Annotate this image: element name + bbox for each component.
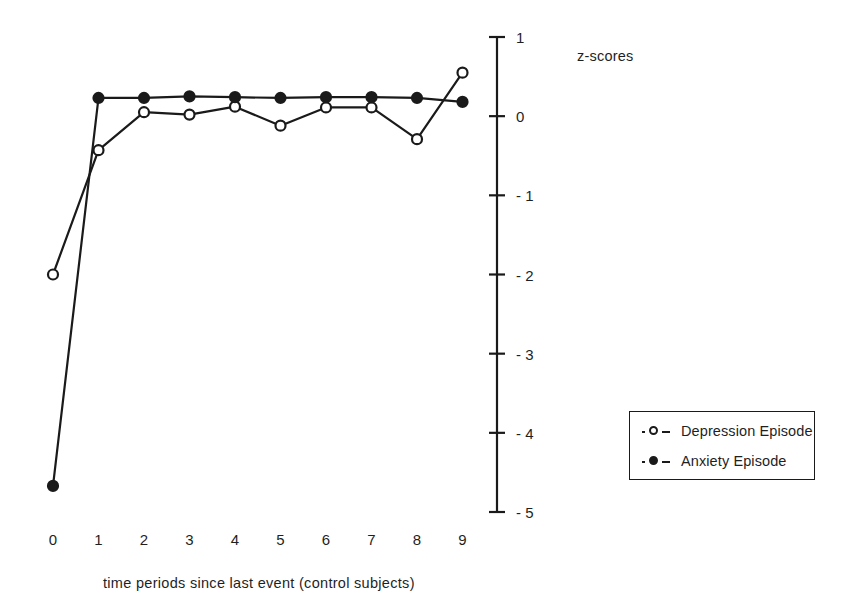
line-chart-canvas: 10- 1- 2- 3- 4- 5 0123456789 <box>0 0 867 616</box>
x-axis-tick-label: 2 <box>140 531 148 548</box>
x-axis-tick-label: 0 <box>49 531 57 548</box>
open-circle-icon <box>139 107 149 117</box>
filled-circle-icon <box>412 93 422 103</box>
series-line <box>53 96 463 486</box>
y-axis-tick-label: - 5 <box>516 504 534 521</box>
open-circle-icon <box>412 134 422 144</box>
open-circle-icon <box>321 102 331 112</box>
legend: Depression Episode Anxiety Episode <box>629 411 815 480</box>
x-axis-tick-label: 1 <box>94 531 102 548</box>
open-circle-icon <box>642 423 672 439</box>
x-axis-title: time periods since last event (control s… <box>103 575 415 591</box>
legend-label-anxiety-episode: Anxiety Episode <box>681 453 786 469</box>
series-anxiety-episode <box>48 91 468 491</box>
x-axis-tick-label: 5 <box>276 531 284 548</box>
y-axis: 10- 1- 2- 3- 4- 5 <box>489 29 534 521</box>
series-line <box>53 73 463 275</box>
series-depression-episode <box>48 68 468 280</box>
filled-circle-icon <box>642 453 672 469</box>
filled-circle-icon <box>321 92 331 102</box>
filled-circle-icon <box>230 92 240 102</box>
open-circle-icon <box>276 121 286 131</box>
filled-circle-icon <box>458 97 468 107</box>
open-circle-icon <box>367 102 377 112</box>
y-axis-tick-label: - 1 <box>516 187 534 204</box>
legend-item-depression-episode: Depression Episode <box>642 420 813 442</box>
y-axis-tick-label: - 3 <box>516 346 534 363</box>
x-axis-tick-label: 8 <box>413 531 421 548</box>
filled-circle-icon <box>276 93 286 103</box>
y-axis-tick-label: 1 <box>516 29 524 46</box>
y-axis-title: z-scores <box>577 48 633 64</box>
x-axis-tick-label: 4 <box>231 531 239 548</box>
x-axis-tick-labels: 0123456789 <box>49 531 467 548</box>
open-circle-icon <box>185 110 195 120</box>
legend-label-depression-episode: Depression Episode <box>681 423 813 439</box>
data-series-layer <box>48 68 468 491</box>
legend-item-anxiety-episode: Anxiety Episode <box>642 450 786 472</box>
filled-circle-icon <box>185 91 195 101</box>
filled-circle-icon <box>94 93 104 103</box>
open-circle-icon <box>94 145 104 155</box>
open-circle-icon <box>48 270 58 280</box>
x-axis-tick-label: 9 <box>458 531 466 548</box>
chart-figure: 10- 1- 2- 3- 4- 5 0123456789 z-scores ti… <box>0 0 867 616</box>
y-axis-tick-label: - 4 <box>516 425 534 442</box>
open-circle-icon <box>458 68 468 78</box>
y-axis-tick-label: - 2 <box>516 267 534 284</box>
x-axis-tick-label: 7 <box>367 531 375 548</box>
x-axis-tick-label: 3 <box>185 531 193 548</box>
y-axis-tick-label: 0 <box>516 108 524 125</box>
filled-circle-icon <box>367 92 377 102</box>
filled-circle-icon <box>48 481 58 491</box>
filled-circle-icon <box>139 93 149 103</box>
x-axis-tick-label: 6 <box>322 531 330 548</box>
